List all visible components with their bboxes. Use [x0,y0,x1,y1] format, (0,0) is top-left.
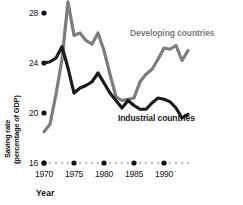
y-tick-label-28: 28 [22,8,38,18]
y-tick-label-20: 20 [22,108,38,118]
series-label-industrial-countries: Industrial countries [118,113,195,123]
y-axis-title-line2: (percentage of GDP) [13,95,22,164]
x-tick-label-1980: 1980 [91,169,117,179]
y-tick-label-16: 16 [22,158,38,168]
chart-container: 28 24 20 16 1970 1975 1980 1985 1990 Yea… [0,0,243,205]
line-industrial-countries [44,47,188,118]
x-tick-label-1970: 1970 [31,169,57,179]
x-tick-label-1975: 1975 [61,169,87,179]
x-tick-label-1990: 1990 [151,169,177,179]
series-label-developing-countries: Developing countries [130,28,214,38]
x-axis-title: Year [36,188,54,198]
x-axis-minor-ticks [49,162,189,164]
x-tick-label-1985: 1985 [121,169,147,179]
x-axis-major-ticks [41,160,166,165]
y-axis-ticks [41,10,46,165]
y-tick-label-24: 24 [22,58,38,68]
